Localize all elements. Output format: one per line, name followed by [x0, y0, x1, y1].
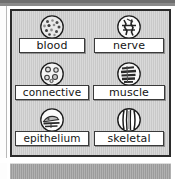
neuron-branching-circle-icon	[114, 14, 144, 40]
skeletal-fibers-circle-icon	[114, 107, 144, 133]
connective-cells-circle-icon	[37, 61, 67, 87]
bottom-caption-bar	[10, 163, 171, 179]
tissue-cell-muscle[interactable]: muscle	[92, 60, 166, 107]
tissue-label-nerve: nerve	[94, 38, 164, 53]
blood-cells-circle-icon	[37, 14, 67, 40]
screenshot-root: blood nerve	[0, 0, 175, 179]
tissue-cell-epithelium[interactable]: epithelium	[15, 106, 89, 153]
gutter-divider-line	[6, 6, 7, 158]
tissue-cell-nerve[interactable]: nerve	[92, 13, 166, 60]
tissue-label-connective: connective	[15, 85, 89, 100]
top-chrome-band	[0, 0, 175, 6]
tissue-cell-skeletal[interactable]: skeletal	[92, 106, 166, 153]
top-chrome-shade	[0, 0, 175, 3]
striated-muscle-circle-icon	[114, 61, 144, 87]
tissue-cell-blood[interactable]: blood	[15, 13, 89, 60]
tissue-label-blood: blood	[19, 38, 85, 53]
tissue-types-panel: blood nerve	[10, 9, 171, 157]
epithelium-layers-circle-icon	[37, 107, 67, 133]
tissue-grid: blood nerve	[12, 11, 169, 155]
tissue-cell-connective[interactable]: connective	[15, 60, 89, 107]
tissue-label-epithelium: epithelium	[15, 131, 89, 146]
right-gutter	[171, 6, 175, 179]
bottom-caption-text	[18, 171, 163, 179]
tissue-label-skeletal: skeletal	[94, 131, 164, 146]
tissue-label-muscle: muscle	[93, 85, 165, 100]
